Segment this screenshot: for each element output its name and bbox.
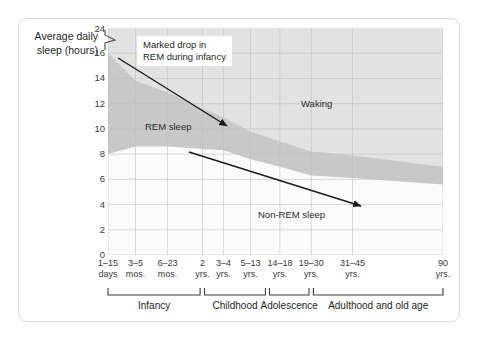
stage-label-adulthood-and-old-age: Adulthood and old age <box>328 300 428 311</box>
callout-line-1: Marked drop in <box>143 39 226 51</box>
x-tick-line-2: yrs. <box>267 269 292 280</box>
x-tick-line-1: 90 <box>436 258 451 269</box>
region-label-non-rem-sleep: Non-REM sleep <box>258 209 325 220</box>
x-tick-6-23-mos-: 6–23mos. <box>158 258 178 280</box>
x-tick-line-1: 3–4 <box>216 258 231 269</box>
y-tick-12: 12 <box>75 98 105 109</box>
x-tick-line-2: mos. <box>126 269 146 280</box>
x-tick-line-1: 31–45 <box>340 258 365 269</box>
region-label-rem-sleep: REM sleep <box>145 121 191 132</box>
x-tick-line-2: yrs. <box>436 269 451 280</box>
x-tick-3-5-mos-: 3–5mos. <box>126 258 146 280</box>
x-tick-31-45-yrs-: 31–45yrs. <box>340 258 365 280</box>
callout-line-2: REM during infancy <box>143 51 226 63</box>
x-tick-line-2: yrs. <box>299 269 324 280</box>
x-tick-line-1: 19–30 <box>299 258 324 269</box>
y-tick-4: 4 <box>75 199 105 210</box>
x-tick-line-1: 6–23 <box>158 258 178 269</box>
x-tick-line-1: 14–18 <box>267 258 292 269</box>
x-tick-3-4-yrs-: 3–4yrs. <box>216 258 231 280</box>
stage-label-adolescence: Adolescence <box>261 300 318 311</box>
stage-label-childhood: Childhood <box>212 300 257 311</box>
bracket-lines <box>0 286 477 300</box>
x-tick-line-2: yrs. <box>240 269 260 280</box>
x-tick-14-18-yrs-: 14–18yrs. <box>267 258 292 280</box>
x-tick-line-1: 3–5 <box>126 258 146 269</box>
rem-drop-callout: Marked drop in REM during infancy <box>137 36 232 66</box>
x-tick-5-13-yrs-: 5–13yrs. <box>240 258 260 280</box>
x-tick-line-2: yrs. <box>195 269 210 280</box>
x-tick-90-yrs-: 90yrs. <box>436 258 451 280</box>
x-tick-2-yrs-: 2yrs. <box>195 258 210 280</box>
y-tick-10: 10 <box>75 123 105 134</box>
x-axis-ticks: 1–15days3–5mos.6–23mos.2yrs.3–4yrs.5–13y… <box>0 258 477 286</box>
x-tick-line-1: 1–15 <box>98 258 118 269</box>
x-tick-line-1: 5–13 <box>240 258 260 269</box>
stage-brackets: InfancyChildhoodAdolescenceAdulthood and… <box>0 286 477 322</box>
y-tick-14: 14 <box>75 72 105 83</box>
y-tick-8: 8 <box>75 148 105 159</box>
x-tick-1-15-days: 1–15days <box>98 258 118 280</box>
region-label-waking: Waking <box>301 98 332 109</box>
x-tick-line-2: yrs. <box>216 269 231 280</box>
x-tick-line-2: mos. <box>158 269 178 280</box>
stage-label-infancy: Infancy <box>138 300 170 311</box>
x-tick-line-2: days <box>98 269 118 280</box>
x-tick-line-1: 2 <box>195 258 210 269</box>
y-tick-6: 6 <box>75 173 105 184</box>
y-tick-2: 2 <box>75 224 105 235</box>
y-axis-break-mark <box>100 30 124 56</box>
x-tick-line-2: yrs. <box>340 269 365 280</box>
x-tick-19-30-yrs-: 19–30yrs. <box>299 258 324 280</box>
